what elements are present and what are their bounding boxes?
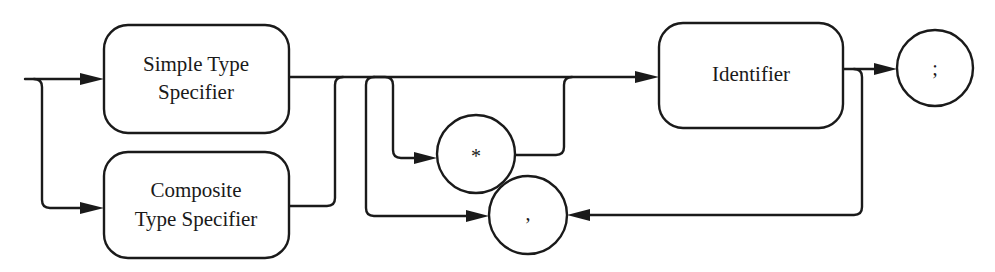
node-semicolon-terminal: ; [897, 30, 973, 106]
node-identifier: Identifier [659, 23, 843, 128]
semicolon-label: ; [932, 57, 938, 79]
simple-type-specifier-label-line2: Specifier [158, 80, 234, 104]
edge-start-to-composite [34, 79, 95, 208]
node-simple-type-specifier: Simple Type Specifier [104, 25, 289, 133]
identifier-label: Identifier [712, 62, 790, 86]
node-pointer-terminal: * [437, 115, 515, 193]
arrow-to-semicolon [874, 63, 897, 75]
edge-pointer-return [516, 77, 572, 155]
comma-label: , [526, 202, 531, 224]
composite-type-specifier-label-line1: Composite [150, 178, 241, 202]
composite-type-specifier-box [104, 152, 289, 258]
declaration-syntax-diagram: Simple Type Specifier Composite Type Spe… [0, 0, 995, 272]
arrow-to-composite [80, 202, 104, 214]
edge-branch-to-pointer [374, 77, 428, 158]
node-composite-type-specifier: Composite Type Specifier [104, 152, 289, 258]
arrow-to-comma-right [567, 209, 590, 221]
arrow-to-identifier [635, 71, 659, 83]
composite-type-specifier-label-line2: Type Specifier [135, 207, 258, 231]
node-comma-terminal: , [489, 176, 567, 254]
edge-composite-merge [289, 77, 343, 206]
arrow-to-simple [80, 73, 104, 85]
pointer-label: * [471, 145, 481, 167]
arrow-to-comma-left [466, 210, 489, 222]
arrow-to-pointer [414, 152, 437, 164]
simple-type-specifier-label-line1: Simple Type [143, 52, 249, 76]
